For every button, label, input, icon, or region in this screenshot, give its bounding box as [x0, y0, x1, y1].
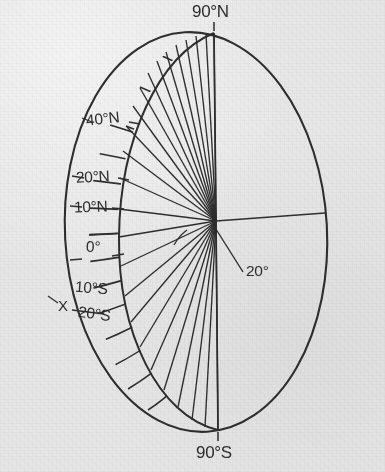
label-north-pole: 90°N [192, 2, 229, 22]
label-lat-40n: 40°N [85, 108, 120, 129]
label-south-pole: 90°S [196, 443, 232, 463]
figure-canvas: 90°N 90°S 40°N 20°N 10°N 0° 10°S 20°S X … [0, 0, 385, 472]
label-angle-20deg: 20° [246, 262, 269, 280]
parallel-10n [86, 208, 240, 214]
label-lat-10s: 10°S [74, 278, 108, 298]
tick-10s-right [112, 254, 124, 256]
parallel-50s [113, 285, 222, 366]
angle-leader-line [214, 226, 243, 272]
label-lat-10n: 10°N [74, 197, 108, 216]
tick-10s-left [70, 259, 82, 260]
label-ticks [70, 118, 140, 260]
label-lat-0: 0° [86, 238, 101, 256]
sphere-outline [54, 25, 338, 439]
label-point-x: X [58, 297, 68, 314]
globe-diagram [0, 0, 385, 472]
label-lat-20n: 20°N [76, 167, 110, 187]
